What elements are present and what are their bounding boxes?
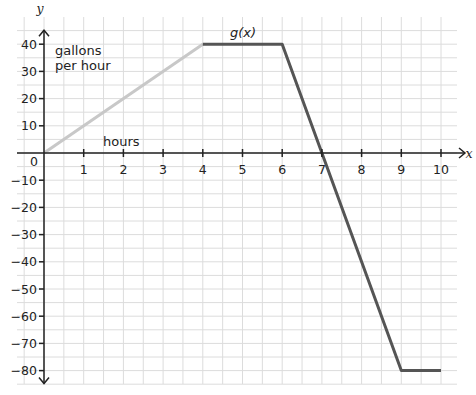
y-tick-label: 40 — [21, 37, 37, 52]
x-units-label: hours — [103, 134, 140, 149]
x-tick-label: 9 — [397, 162, 405, 177]
x-tick-label: 3 — [159, 162, 167, 177]
y-tick-label: −10 — [11, 173, 37, 188]
y-tick-label: −70 — [11, 336, 37, 351]
x-tick-label: 10 — [433, 162, 449, 177]
x-tick-label: 6 — [278, 162, 286, 177]
x-tick-label: 1 — [80, 162, 88, 177]
x-tick-label: 4 — [199, 162, 207, 177]
x-axis-label: x — [465, 146, 472, 161]
y-tick-label: 30 — [21, 64, 37, 79]
y-tick-label: −40 — [11, 254, 37, 269]
x-tick-label: 5 — [239, 162, 247, 177]
y-tick-label: 10 — [21, 118, 37, 133]
y-tick-label: −80 — [11, 363, 37, 378]
x-tick-label: 8 — [358, 162, 366, 177]
chart: 1234567891040302010−10−20−30−40−50−60−70… — [0, 0, 476, 395]
y-units-line-2: per hour — [55, 58, 111, 73]
y-tick-label: 20 — [21, 91, 37, 106]
y-tick-label: −20 — [11, 200, 37, 215]
x-tick-label: 2 — [119, 162, 127, 177]
y-tick-label: −30 — [11, 227, 37, 242]
origin-label: 0 — [30, 154, 38, 169]
y-axis-label: y — [35, 1, 44, 16]
y-units-line-1: gallons — [55, 43, 102, 58]
y-tick-label: −50 — [11, 282, 37, 297]
y-tick-label: −60 — [11, 309, 37, 324]
function-label: g(x) — [230, 25, 256, 40]
x-tick-label: 7 — [318, 162, 326, 177]
